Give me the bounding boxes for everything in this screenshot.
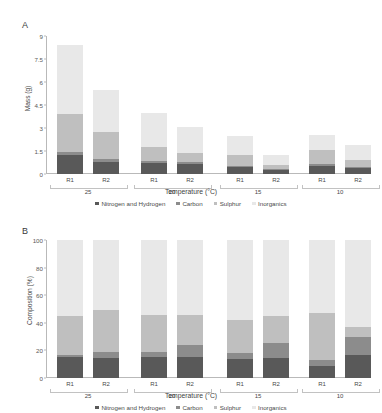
bar-segment: [177, 315, 203, 345]
legend-item[interactable]: Inorganics: [252, 200, 287, 207]
legend-item[interactable]: Nitrogen and Hydrogen: [95, 200, 165, 207]
bar-segment: [309, 313, 335, 360]
stacked-bar: [93, 240, 119, 378]
replicate-label: R2: [354, 177, 362, 183]
bar-segment: [141, 163, 167, 174]
y-tick-mark: [44, 240, 47, 241]
figure-root: A Mass (g) 01.534.567.59 R1R225R1R220R1R…: [0, 0, 382, 413]
bar-segment: [141, 357, 167, 378]
legend-item[interactable]: Inorganics: [252, 404, 287, 411]
legend-item[interactable]: Sulphur: [214, 404, 241, 411]
bar-segment: [57, 240, 83, 316]
bar-segment: [309, 166, 335, 174]
bar-segment: [93, 162, 119, 174]
legend-label: Sulphur: [220, 404, 241, 411]
legend-item[interactable]: Nitrogen and Hydrogen: [95, 404, 165, 411]
stacked-bar: [141, 113, 167, 174]
legend-swatch-icon: [214, 202, 218, 206]
replicate-label: R2: [354, 381, 362, 387]
stacked-bar: [263, 155, 289, 174]
bar-segment: [177, 240, 203, 315]
legend-label: Nitrogen and Hydrogen: [101, 404, 165, 411]
stacked-bar: [309, 135, 335, 174]
panel-a-legend: Nitrogen and HydrogenCarbonSulphurInorga…: [0, 200, 382, 207]
legend-swatch-icon: [95, 406, 99, 410]
bar-segment: [345, 327, 371, 336]
legend-item[interactable]: Carbon: [176, 404, 202, 411]
panel-a-letter: A: [22, 20, 28, 30]
bar-segment: [309, 240, 335, 313]
bar-segment: [227, 136, 253, 156]
bar-segment: [345, 355, 371, 378]
legend-swatch-icon: [176, 202, 180, 206]
bar-segment: [57, 155, 83, 174]
bar-segment: [141, 240, 167, 315]
stacked-bar: [227, 136, 253, 174]
bar-segment: [93, 358, 119, 378]
replicate-label: R2: [272, 381, 280, 387]
bar-segment: [263, 316, 289, 344]
legend-item[interactable]: Sulphur: [214, 200, 241, 207]
stacked-bar: [57, 240, 83, 378]
panel-a-bars: [46, 36, 364, 174]
bar-segment: [93, 90, 119, 133]
replicate-label: R1: [66, 177, 74, 183]
stacked-bar: [141, 240, 167, 378]
bar-segment: [309, 135, 335, 150]
y-tick-mark: [44, 105, 47, 106]
legend-label: Nitrogen and Hydrogen: [101, 200, 165, 207]
legend-swatch-icon: [252, 406, 256, 410]
stacked-bar: [93, 90, 119, 174]
y-tick-mark: [44, 267, 47, 268]
bar-segment: [309, 366, 335, 378]
legend-swatch-icon: [95, 202, 99, 206]
bar-segment: [227, 240, 253, 320]
bar-segment: [93, 132, 119, 159]
stacked-bar: [263, 240, 289, 378]
bar-segment: [309, 150, 335, 164]
bar-segment: [57, 316, 83, 355]
stacked-bar: [227, 240, 253, 378]
bar-segment: [227, 155, 253, 165]
y-tick-label: 1.5: [34, 148, 43, 155]
legend-label: Carbon: [182, 200, 202, 207]
panel-a-x-axis-title: Temperature (°C): [0, 188, 382, 195]
panel-b-y-axis-title: Composition (%): [26, 256, 33, 346]
y-tick-mark: [44, 151, 47, 152]
legend-item[interactable]: Carbon: [176, 200, 202, 207]
stacked-bar: [309, 240, 335, 378]
bar-segment: [227, 359, 253, 378]
stacked-bar: [345, 145, 371, 174]
replicate-label: R2: [102, 381, 110, 387]
stacked-bar: [57, 45, 83, 174]
y-tick-label: 40: [36, 319, 43, 326]
bar-segment: [93, 240, 119, 310]
y-tick-label: 80: [36, 264, 43, 271]
replicate-label: R2: [272, 177, 280, 183]
bar-segment: [57, 357, 83, 378]
y-tick-label: 100: [33, 237, 43, 244]
y-tick-label: 4.5: [34, 102, 43, 109]
y-tick-label: 7.5: [34, 56, 43, 63]
panel-b-x-axis-title: Temperature (°C): [0, 392, 382, 399]
y-tick-mark: [44, 36, 47, 37]
panel-a: A Mass (g) 01.534.567.59 R1R225R1R220R1R…: [0, 0, 382, 212]
replicate-label: R1: [236, 177, 244, 183]
y-tick-mark: [44, 322, 47, 323]
y-tick-label: 9: [40, 33, 43, 40]
y-tick-mark: [44, 82, 47, 83]
replicate-label: R1: [150, 381, 158, 387]
bar-segment: [177, 164, 203, 174]
bar-segment: [263, 358, 289, 378]
stacked-bar: [345, 240, 371, 378]
panel-a-y-axis-title: Mass (g): [24, 64, 31, 134]
bar-segment: [177, 357, 203, 378]
legend-swatch-icon: [252, 202, 256, 206]
bar-segment: [345, 337, 371, 355]
bar-segment: [93, 352, 119, 359]
bar-segment: [263, 343, 289, 357]
bar-segment: [141, 147, 167, 160]
bar-segment: [263, 155, 289, 165]
panel-b-letter: B: [22, 226, 28, 236]
bar-segment: [141, 113, 167, 147]
